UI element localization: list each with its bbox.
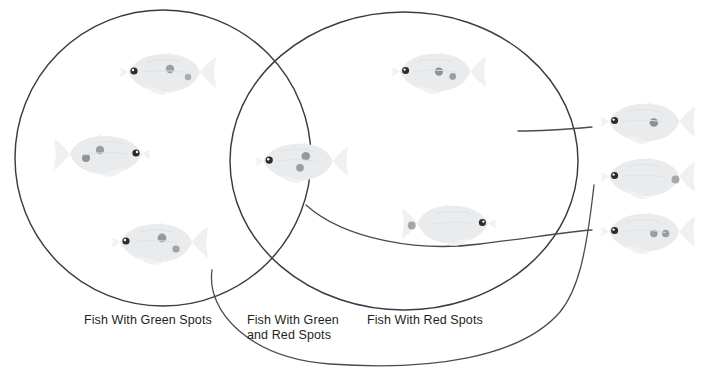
venn-diagram-canvas: Fish With Green Spots Fish With Green an… xyxy=(0,0,704,381)
fish-right-top[interactable] xyxy=(384,46,490,101)
fish-left-bottom[interactable] xyxy=(104,216,212,272)
right-set-label: Fish With Red Spots xyxy=(367,313,483,328)
fish-outside-middle[interactable] xyxy=(592,151,700,206)
fish-outside-bottom[interactable] xyxy=(592,206,700,261)
fish-left-middle[interactable] xyxy=(50,128,158,184)
left-set-label: Fish With Green Spots xyxy=(84,313,212,328)
intersection-set-label: Fish With Green and Red Spots xyxy=(247,313,339,343)
fish-right-bottom[interactable] xyxy=(398,198,504,253)
connector-to-outside-top[interactable] xyxy=(518,127,592,131)
fish-left-top[interactable] xyxy=(112,46,220,102)
fish-intersection[interactable] xyxy=(248,136,352,190)
fish-outside-top[interactable] xyxy=(592,96,700,151)
